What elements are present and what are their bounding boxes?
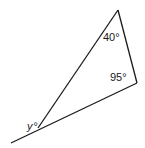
angle-label-exterior: y° [26, 120, 38, 132]
angle-label-right: 95° [110, 71, 127, 83]
degree-symbol: ° [34, 120, 38, 132]
angle-label-top: 40° [103, 31, 120, 43]
side-top-left [38, 10, 118, 128]
triangle-diagram: 40° 95° y° [0, 0, 145, 148]
extended-base-line [11, 83, 137, 143]
